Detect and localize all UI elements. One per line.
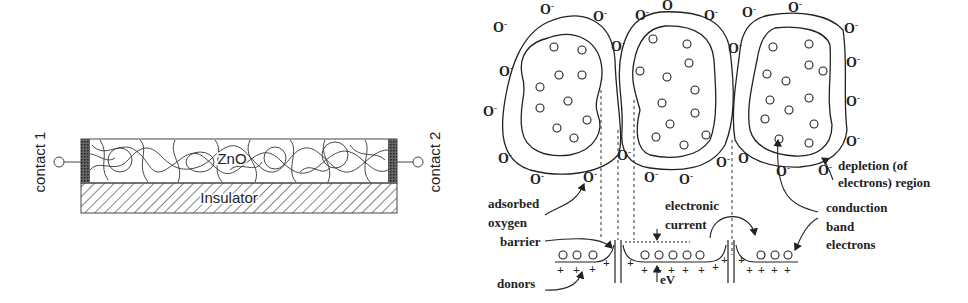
svg-text:+: + xyxy=(627,256,634,270)
svg-text:O-: O- xyxy=(742,4,756,20)
svg-text:O-: O- xyxy=(540,1,554,17)
svg-text:O-: O- xyxy=(483,103,497,119)
grain-1-outer xyxy=(503,16,621,174)
svg-text:+: + xyxy=(573,263,580,277)
contact-1-label: contact 1 xyxy=(31,132,48,193)
svg-text:O-: O- xyxy=(679,171,693,187)
zno-label: ZnO xyxy=(217,150,246,167)
contact-2-electrode xyxy=(388,139,397,183)
svg-text:O-: O- xyxy=(846,54,860,70)
svg-text:O: O xyxy=(662,0,673,13)
svg-text:+: + xyxy=(784,263,791,277)
svg-text:+: + xyxy=(712,260,719,274)
svg-text:O-: O- xyxy=(704,7,718,23)
contact-1-electrode xyxy=(81,139,90,183)
contact-2-label: contact 2 xyxy=(426,132,443,193)
svg-text:O: O xyxy=(738,151,749,166)
svg-text:+: + xyxy=(771,263,778,277)
depletion-region-label-line1: depletion (of xyxy=(838,158,908,173)
svg-text:O-: O- xyxy=(493,19,507,35)
conduction-band-label-line3: electrons xyxy=(826,237,876,252)
svg-text:+: + xyxy=(738,253,745,267)
svg-text:O-: O- xyxy=(846,93,860,109)
grain-3-depletion-boundary xyxy=(749,27,832,156)
depletion-region-label-line2: electrons) region xyxy=(838,175,931,190)
svg-text:O-: O- xyxy=(611,38,625,54)
electronic-current-label-line1: electronic xyxy=(665,198,719,213)
diagram-canvas: ZnO Insulator contact 1 contact 2 xyxy=(0,0,968,303)
svg-text:O-: O- xyxy=(844,20,858,36)
svg-text:+: + xyxy=(682,263,689,277)
insulator-label: Insulator xyxy=(200,189,258,206)
svg-text:+: + xyxy=(698,263,705,277)
svg-text:O-: O- xyxy=(818,162,832,178)
donors-label: donors xyxy=(497,276,535,291)
svg-text:O-: O- xyxy=(846,133,860,149)
ev-label: eV xyxy=(660,272,676,287)
svg-text:O-: O- xyxy=(617,147,631,163)
svg-text:+: + xyxy=(746,263,753,277)
svg-text:O-: O- xyxy=(498,150,512,166)
svg-text:O-: O- xyxy=(499,63,513,79)
conduction-band-label-line2: band xyxy=(826,219,855,234)
grain-1-depletion-boundary xyxy=(521,35,602,156)
svg-text:+: + xyxy=(721,253,728,267)
adsorbed-oxygen-label-line2: oxygen xyxy=(488,215,528,230)
svg-text:O-: O- xyxy=(644,169,658,185)
band-electrons xyxy=(559,251,792,259)
svg-text:+: + xyxy=(603,256,610,270)
svg-text:O-: O- xyxy=(583,169,597,185)
electronic-current-label-line2: current xyxy=(665,217,707,232)
svg-text:+: + xyxy=(641,263,648,277)
svg-text:O-: O- xyxy=(716,154,730,170)
svg-text:O-: O- xyxy=(593,8,607,24)
contact-1-terminal xyxy=(54,157,64,167)
zno-device-schematic: ZnO Insulator contact 1 contact 2 xyxy=(31,132,443,213)
barrier-label: barrier xyxy=(500,234,541,249)
grain-boundary-model xyxy=(503,12,847,174)
adsorbed-oxygen-label-line1: adsorbed xyxy=(488,196,540,211)
svg-text:O-: O- xyxy=(530,171,544,187)
conduction-band-label-line1: conduction xyxy=(826,200,888,215)
svg-text:+: + xyxy=(758,263,765,277)
svg-text:O-: O- xyxy=(635,7,649,23)
svg-text:+: + xyxy=(557,263,564,277)
svg-text:+: + xyxy=(589,262,596,276)
contact-2-terminal xyxy=(413,157,423,167)
conduction-electrons xyxy=(536,35,827,149)
